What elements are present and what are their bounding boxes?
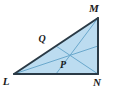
point-label-p: P <box>60 59 67 70</box>
point-label-q: Q <box>38 33 45 44</box>
geometry-figure: M L N Q P <box>0 0 115 89</box>
vertex-label-l: L <box>2 75 10 87</box>
triangle-diagram-svg: M L N Q P <box>0 0 115 89</box>
vertex-label-m: M <box>88 2 100 14</box>
vertex-label-n: N <box>92 76 102 88</box>
